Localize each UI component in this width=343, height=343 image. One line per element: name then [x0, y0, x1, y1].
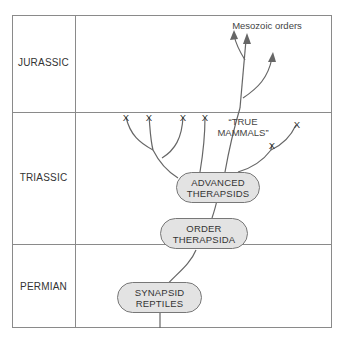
- extinction-x-icon: X: [146, 112, 153, 123]
- extinction-x-icon: X: [202, 112, 209, 123]
- node-advanced-therapsids: ADVANCED THERAPSIDS: [176, 172, 260, 203]
- true-mammals-label-line1: “TRUE: [213, 116, 273, 127]
- arrow-up-icon: [243, 33, 251, 44]
- extinction-x-icon: X: [180, 112, 187, 123]
- node-order-therapsida-line1: ORDER: [161, 223, 247, 234]
- mesozoic-orders-label: Mesozoic orders: [222, 20, 312, 31]
- node-synapsid-reptiles-line2: REPTILES: [118, 298, 201, 309]
- node-synapsid-reptiles: SYNAPSID REPTILES: [117, 282, 202, 313]
- lineage-to-x3: [162, 117, 183, 158]
- arrow-up-icon: [268, 52, 276, 62]
- node-advanced-therapsids-line1: ADVANCED: [177, 177, 259, 188]
- lineage-to-x4: [200, 117, 205, 172]
- extinction-x-icon: X: [269, 140, 276, 151]
- true-mammals-label-line2: MAMMALS”: [213, 127, 273, 138]
- arrow-up-icon: [230, 30, 238, 40]
- right-lineage: [238, 150, 271, 172]
- node-order-therapsida: ORDER THERAPSIDA: [160, 218, 248, 249]
- extinction-x-icon: X: [123, 112, 130, 123]
- mesozoic-right: [243, 58, 272, 98]
- node-synapsid-reptiles-line1: SYNAPSID: [118, 287, 201, 298]
- lineage-branch: [153, 150, 178, 178]
- extinction-x-icon: X: [294, 119, 301, 130]
- node-advanced-therapsids-line2: THERAPSIDS: [177, 188, 259, 199]
- node-order-therapsida-line2: THERAPSIDA: [161, 234, 247, 245]
